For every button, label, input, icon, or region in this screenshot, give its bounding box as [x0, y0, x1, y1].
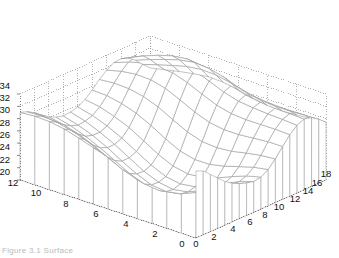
x-tick-10: 10: [274, 201, 285, 212]
y-tick-6: 6: [93, 208, 98, 219]
x-tick-6: 6: [247, 216, 252, 227]
z-tick-28: 28: [0, 117, 10, 128]
z-tick-26: 26: [0, 129, 10, 140]
y-tick-2: 2: [152, 228, 157, 239]
z-tick-32: 32: [0, 92, 10, 103]
z-tick-22: 22: [0, 154, 10, 165]
x-tick-8: 8: [262, 209, 267, 220]
figure-3d-surface-plot: 3432302826242220121086420024681012141618…: [0, 0, 339, 258]
x-tick-18: 18: [321, 168, 332, 179]
x-tick-2: 2: [211, 231, 216, 242]
y-tick-10: 10: [31, 187, 42, 198]
x-tick-4: 4: [230, 223, 235, 234]
z-tick-34: 34: [0, 80, 10, 91]
x-tick-12: 12: [290, 193, 301, 204]
y-tick-8: 8: [63, 198, 68, 209]
z-tick-20: 20: [0, 166, 10, 177]
surface-plot-canvas: 3432302826242220121086420024681012141618: [0, 0, 339, 258]
z-tick-24: 24: [0, 141, 10, 152]
z-tick-30: 30: [0, 104, 10, 115]
figure-caption: Figure 3.1 Surface: [2, 246, 337, 258]
y-tick-12: 12: [8, 177, 19, 188]
y-tick-4: 4: [123, 218, 128, 229]
